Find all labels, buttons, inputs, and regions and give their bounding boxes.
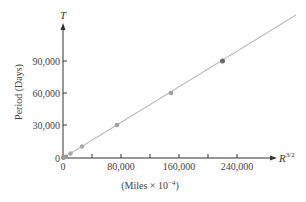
y-tick-label: 60,000: [33, 88, 61, 99]
y-tick-label: 0: [55, 153, 60, 164]
x-ticks: [92, 154, 237, 158]
y-axis-title: Period (Days): [13, 64, 25, 120]
y-tick-label: 90,000: [33, 56, 61, 67]
x-tick-label: 160,000: [163, 161, 196, 172]
data-point: [115, 123, 120, 128]
y-ticks: [63, 61, 67, 125]
data-point: [169, 91, 174, 96]
data-point: [220, 59, 225, 64]
fit-line: [63, 15, 296, 158]
data-point: [64, 155, 68, 159]
x-tick-label: 0: [61, 161, 66, 172]
chart: T R3/2 0 30,000 60,000 90,000 0 80,000 1…: [0, 0, 306, 202]
x-axis-arrow-icon: [270, 156, 277, 161]
x-axis-var: R3/2: [278, 151, 295, 164]
data-point: [80, 144, 84, 148]
x-tick-label: 240,000: [221, 161, 254, 172]
x-axis-title: (Miles × 10−4): [121, 179, 179, 192]
y-axis-arrow-icon: [61, 23, 66, 30]
y-tick-label: 30,000: [33, 120, 61, 131]
x-tick-label: 80,000: [107, 161, 135, 172]
data-point: [68, 151, 72, 155]
y-axis-var: T: [60, 9, 67, 21]
